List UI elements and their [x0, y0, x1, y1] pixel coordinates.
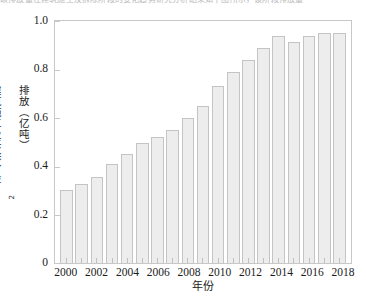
bar-2011[interactable]	[227, 72, 240, 263]
bar-cell-2002	[89, 21, 104, 263]
x-tick-mark-2000	[66, 258, 67, 263]
bar-cell-2008	[180, 21, 195, 263]
bar-cell-2017	[317, 21, 332, 263]
x-tick-mark-2001	[81, 258, 82, 263]
bar-2007[interactable]	[166, 130, 179, 263]
bar-cell-2007	[165, 21, 180, 263]
x-tick-label-2010: 2010	[208, 267, 231, 279]
x-tick-label-2016: 2016	[301, 267, 324, 279]
bar-2018[interactable]	[333, 33, 346, 263]
bar-cell-2011	[226, 21, 241, 263]
bar-2013[interactable]	[257, 48, 270, 263]
y-tick-label-0.6: 0.6	[4, 112, 48, 124]
bar-2005[interactable]	[136, 143, 149, 263]
bar-2016[interactable]	[303, 36, 316, 263]
y-tick-label-0: 0	[4, 257, 48, 269]
y-tick-mark-0	[55, 263, 60, 264]
top-text-line: 碳排放量在建筑施工及拆除阶段的变化趋势研究分析结果如下图所示，该阶段排放量	[0, 0, 366, 4]
y-axis-title-pre: 建筑施工及拆除阶段CO	[0, 85, 3, 200]
chart-figure: 建筑施工及拆除阶段CO2排放（亿吨） 1.0 0.8 0.6 0.4 0.2 0	[0, 9, 366, 297]
bar-series	[55, 21, 351, 263]
bar-2000[interactable]	[60, 190, 73, 263]
x-tick-label-2006: 2006	[147, 267, 170, 279]
x-tick-mark-2009	[202, 258, 203, 263]
x-tick-label-2002: 2002	[85, 267, 108, 279]
bar-2014[interactable]	[272, 36, 285, 263]
x-tick-mark-2011	[233, 258, 234, 263]
bar-2017[interactable]	[318, 33, 331, 263]
bar-cell-2018	[332, 21, 347, 263]
bar-cell-2001	[74, 21, 89, 263]
x-tick-mark-2004	[127, 258, 128, 263]
y-axis-title-text: 建筑施工及拆除阶段CO2排放（亿吨）	[0, 85, 32, 200]
bar-cell-2009	[195, 21, 210, 263]
x-tick-mark-2014	[278, 258, 279, 263]
bar-2015[interactable]	[288, 42, 301, 263]
bar-2006[interactable]	[151, 137, 164, 263]
x-tick-mark-2012	[248, 258, 249, 263]
x-tick-mark-2005	[142, 258, 143, 263]
bar-2010[interactable]	[212, 86, 225, 263]
x-tick-label-2012: 2012	[239, 267, 262, 279]
y-tick-label-1.0: 1.0	[4, 15, 48, 27]
x-tick-mark-2016	[309, 258, 310, 263]
bar-2008[interactable]	[182, 118, 195, 263]
x-tick-label-2018: 2018	[332, 267, 355, 279]
x-tick-mark-2006	[157, 258, 158, 263]
x-tick-label-2000: 2000	[54, 267, 77, 279]
x-tick-label-2004: 2004	[116, 267, 139, 279]
x-tick-mark-2002	[96, 258, 97, 263]
bar-2001[interactable]	[75, 184, 88, 263]
bar-cell-2014	[271, 21, 286, 263]
bar-cell-2000	[59, 21, 74, 263]
x-tick-label-2008: 2008	[178, 267, 201, 279]
x-tick-mark-2003	[112, 258, 113, 263]
bar-2009[interactable]	[197, 106, 210, 263]
bar-2003[interactable]	[106, 164, 119, 263]
y-axis-title-post: 排放（亿吨）	[17, 85, 32, 200]
bar-cell-2016	[302, 21, 317, 263]
y-tick-label-0.4: 0.4	[4, 160, 48, 172]
x-tick-label-2014: 2014	[270, 267, 293, 279]
x-tick-mark-2017	[324, 258, 325, 263]
page-top-text-fragment: 碳排放量在建筑施工及拆除阶段的变化趋势研究分析结果如下图所示，该阶段排放量	[0, 0, 366, 9]
bar-2012[interactable]	[242, 60, 255, 263]
bar-cell-2005	[135, 21, 150, 263]
bar-cell-2015	[286, 21, 301, 263]
x-tick-mark-2015	[293, 258, 294, 263]
bar-cell-2010	[211, 21, 226, 263]
y-axis-title: 建筑施工及拆除阶段CO2排放（亿吨）	[2, 20, 18, 264]
x-tick-mark-2008	[187, 258, 188, 263]
x-tick-mark-2018	[339, 258, 340, 263]
bar-cell-2013	[256, 21, 271, 263]
y-tick-label-0.2: 0.2	[4, 209, 48, 221]
x-tick-mark-2007	[172, 258, 173, 263]
bar-2004[interactable]	[121, 154, 134, 263]
bar-2002[interactable]	[91, 177, 104, 263]
bar-cell-2012	[241, 21, 256, 263]
x-axis-title: 年份	[54, 281, 352, 292]
x-tick-mark-2010	[218, 258, 219, 263]
x-tick-mark-2013	[263, 258, 264, 263]
plot-area	[54, 20, 352, 264]
bar-cell-2003	[104, 21, 119, 263]
y-tick-label-0.8: 0.8	[4, 63, 48, 75]
bar-cell-2004	[120, 21, 135, 263]
bar-cell-2006	[150, 21, 165, 263]
